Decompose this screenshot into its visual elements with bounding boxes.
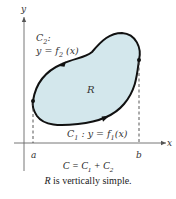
point-a-dot (31, 99, 35, 103)
point-b-label: b (136, 150, 142, 160)
c1-eq-suffix: (x) (115, 128, 128, 139)
c1-direction-arrow (102, 116, 109, 122)
c2-colon: : (47, 32, 50, 43)
caption-line-1: C = C1 + C2 (63, 160, 114, 174)
c2-eq-suffix: (x) (63, 45, 79, 56)
c2-equation: y = f2 (x) (35, 45, 79, 59)
point-b-dot (137, 58, 141, 62)
c2-eq-prefix: y = f (35, 45, 60, 56)
line-integral-region-diagram: y x a b R C2: y = f2 (x) C1 : y = f1(x) … (0, 0, 176, 199)
caption-mid: + C (91, 160, 110, 171)
c1-label: C1 : y = f1(x) (67, 128, 128, 142)
region-label: R (86, 84, 95, 95)
caption-line-2: R is vertically simple. (43, 175, 131, 186)
caption-text: is vertically simple. (51, 175, 132, 186)
caption-sub2: 2 (110, 166, 114, 174)
c1-eq-prefix: : y = f (78, 128, 112, 139)
caption-region-var: R (43, 175, 50, 186)
point-a-label: a (31, 150, 36, 160)
c2-label: C2: (36, 32, 51, 46)
y-axis-label: y (20, 4, 27, 14)
caption-lhs: C = C (63, 160, 88, 171)
x-axis-label: x (167, 138, 172, 148)
